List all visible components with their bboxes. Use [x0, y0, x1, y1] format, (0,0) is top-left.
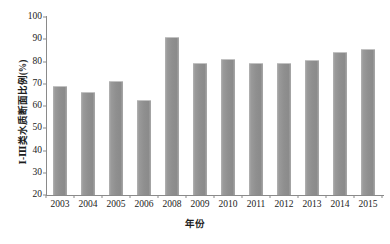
bar	[81, 92, 95, 195]
x-tick-label: 2015	[359, 200, 378, 210]
bar-slot	[102, 17, 130, 195]
x-tick-mark	[102, 195, 103, 198]
bar-slot	[270, 17, 298, 195]
bar	[277, 63, 291, 195]
bars-layer	[46, 17, 382, 195]
x-tick-mark	[130, 195, 131, 198]
x-tick-label: 2012	[275, 200, 294, 210]
bar-slot	[130, 17, 158, 195]
x-tick-mark	[214, 195, 215, 198]
x-tick-label: 2011	[247, 200, 266, 210]
bar-slot	[214, 17, 242, 195]
y-tick-label: 20	[33, 190, 43, 200]
bar	[249, 63, 263, 195]
bar-slot	[46, 17, 74, 195]
x-tick-mark	[46, 195, 47, 198]
x-tick-mark	[270, 195, 271, 198]
y-tick-label: 40	[33, 146, 43, 156]
bar-slot	[354, 17, 382, 195]
x-tick-label: 2013	[303, 200, 322, 210]
x-axis-line	[46, 195, 384, 196]
bar	[137, 100, 151, 195]
bar-slot	[242, 17, 270, 195]
bar	[109, 81, 123, 195]
x-tick-label: 2010	[219, 200, 238, 210]
x-tick-mark	[158, 195, 159, 198]
y-axis-title: Ⅰ-Ⅲ类水质断面比例(%)	[15, 32, 29, 192]
bar-slot	[158, 17, 186, 195]
x-tick-label: 2004	[79, 200, 98, 210]
bar	[221, 59, 235, 195]
bar-slot	[326, 17, 354, 195]
plot-area: 1009080706050403020 20032004200520062008…	[46, 17, 382, 195]
bar	[53, 86, 67, 195]
y-tick-label: 70	[33, 79, 43, 89]
x-tick-label: 2006	[135, 200, 154, 210]
x-tick-mark	[298, 195, 299, 198]
bar	[305, 60, 319, 195]
bar	[361, 49, 375, 195]
x-tick-label: 2003	[51, 200, 70, 210]
x-tick-label: 2005	[107, 200, 126, 210]
x-tick-label: 2014	[331, 200, 350, 210]
y-tick-label: 30	[33, 168, 43, 178]
y-tick-label: 80	[33, 57, 43, 67]
x-tick-label: 2009	[191, 200, 210, 210]
bar	[333, 52, 347, 195]
x-tick-mark	[74, 195, 75, 198]
y-tick-label: 100	[28, 12, 42, 22]
x-tick-mark	[354, 195, 355, 198]
x-tick-mark	[326, 195, 327, 198]
bar	[165, 37, 179, 195]
y-tick-label: 50	[33, 124, 43, 134]
bar-slot	[298, 17, 326, 195]
x-axis-title: 年份	[0, 216, 390, 230]
y-tick-label: 90	[33, 35, 43, 45]
bar-slot	[74, 17, 102, 195]
x-tick-mark	[186, 195, 187, 198]
x-tick-mark	[242, 195, 243, 198]
bar-chart: Ⅰ-Ⅲ类水质断面比例(%) 1009080706050403020 200320…	[0, 0, 390, 244]
x-tick-mark	[382, 195, 383, 198]
y-tick-label: 60	[33, 101, 43, 111]
bar	[193, 63, 207, 195]
x-tick-label: 2008	[163, 200, 182, 210]
bar-slot	[186, 17, 214, 195]
